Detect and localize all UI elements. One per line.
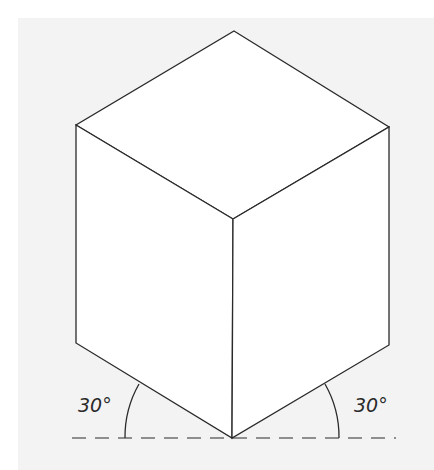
isometric-cube-diagram: 30° 30° bbox=[0, 0, 434, 470]
left-angle-label: 30° bbox=[78, 394, 112, 416]
right-angle-arc bbox=[325, 384, 339, 438]
right-angle-label: 30° bbox=[354, 394, 388, 416]
left-angle-arc bbox=[125, 384, 139, 438]
